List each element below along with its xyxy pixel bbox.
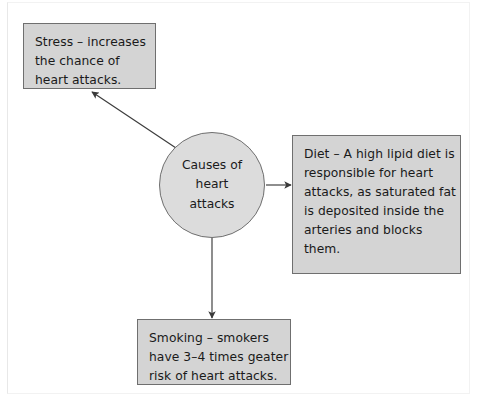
node-box-smoking: Smoking – smokers have 3–4 times geater … xyxy=(137,319,291,385)
node-label-diet: Diet – A high lipid diet is responsible … xyxy=(293,136,460,259)
node-circle-causes-of-heart-attacks: Causes of heart attacks xyxy=(159,132,265,238)
diagram-canvas: Stress – increases the chance of heart a… xyxy=(0,0,478,399)
arrow-to-stress xyxy=(92,92,176,148)
node-label-causes-of-heart-attacks: Causes of heart attacks xyxy=(182,156,242,215)
node-box-diet: Diet – A high lipid diet is responsible … xyxy=(292,135,461,274)
node-box-stress: Stress – increases the chance of heart a… xyxy=(23,23,156,89)
node-label-stress: Stress – increases the chance of heart a… xyxy=(24,24,155,90)
node-label-smoking: Smoking – smokers have 3–4 times geater … xyxy=(138,320,290,386)
